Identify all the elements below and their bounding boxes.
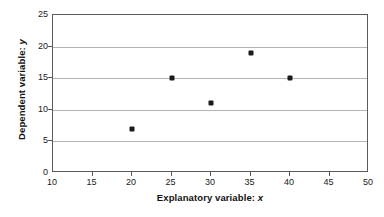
x-tick-label-10: 10 bbox=[37, 177, 67, 187]
y-tick-label-0: 0 bbox=[26, 167, 48, 177]
x-tick-label-20: 20 bbox=[116, 177, 146, 187]
x-tickmark-45 bbox=[329, 172, 330, 176]
data-point bbox=[288, 76, 293, 81]
x-tickmark-35 bbox=[250, 172, 251, 176]
data-point bbox=[169, 76, 174, 81]
gridline-y-5 bbox=[53, 141, 367, 142]
x-tick-label-35: 35 bbox=[235, 177, 265, 187]
y-tick-label-5: 5 bbox=[26, 135, 48, 145]
x-tickmark-15 bbox=[92, 172, 93, 176]
x-tick-label-50: 50 bbox=[353, 177, 383, 187]
y-tick-label-25: 25 bbox=[26, 9, 48, 19]
y-tickmark-5 bbox=[48, 140, 52, 141]
y-axis-tick-labels: 0510152025 bbox=[24, 14, 48, 172]
x-axis-tick-labels: 101520253035404550 bbox=[52, 177, 368, 191]
x-axis-title-text: Explanatory variable: bbox=[157, 192, 255, 203]
x-tickmark-30 bbox=[210, 172, 211, 176]
x-tick-label-25: 25 bbox=[156, 177, 186, 187]
x-tick-label-15: 15 bbox=[77, 177, 107, 187]
plot-area bbox=[52, 14, 368, 172]
x-tick-label-45: 45 bbox=[314, 177, 344, 187]
gridline-y-10 bbox=[53, 110, 367, 111]
y-tick-label-15: 15 bbox=[26, 72, 48, 82]
data-point bbox=[248, 50, 253, 55]
x-tickmark-40 bbox=[289, 172, 290, 176]
x-tick-label-40: 40 bbox=[274, 177, 304, 187]
data-point bbox=[130, 126, 135, 131]
x-tickmark-20 bbox=[131, 172, 132, 176]
x-axis-title-variable: x bbox=[258, 192, 263, 203]
scatter-plot-figure: Dependent variable: y 0510152025 1015202… bbox=[0, 0, 384, 217]
x-axis-title: Explanatory variable: x bbox=[52, 192, 368, 203]
y-tick-label-20: 20 bbox=[26, 41, 48, 51]
y-tickmark-10 bbox=[48, 109, 52, 110]
data-point bbox=[209, 101, 214, 106]
gridline-y-20 bbox=[53, 47, 367, 48]
y-tickmark-15 bbox=[48, 77, 52, 78]
y-tick-label-10: 10 bbox=[26, 104, 48, 114]
x-tick-label-30: 30 bbox=[195, 177, 225, 187]
x-tickmark-25 bbox=[171, 172, 172, 176]
gridline-y-15 bbox=[53, 78, 367, 79]
y-tickmark-20 bbox=[48, 46, 52, 47]
